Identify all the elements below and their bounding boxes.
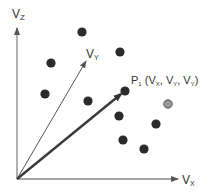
z-axis-label: VZ (12, 7, 25, 22)
x-axis-label: VX (182, 173, 195, 187)
highlight-point (164, 100, 172, 108)
data-point (115, 47, 124, 56)
p1-vector (17, 94, 121, 179)
vector-space-diagram: VZ VY VX P1 (VX, VY, VY) (0, 0, 210, 192)
data-point (118, 135, 127, 144)
data-point (46, 58, 55, 67)
data-point (77, 27, 86, 36)
data-point (139, 144, 148, 153)
data-point (114, 111, 123, 120)
data-point (83, 96, 92, 105)
data-point (40, 89, 49, 98)
y-axis-label: VY (86, 47, 99, 61)
y-axis (17, 61, 86, 179)
point-p1 (120, 86, 129, 95)
p1-label: P1 (VX, VY, VY) (131, 74, 198, 87)
data-point (151, 119, 160, 128)
data-points (40, 27, 172, 153)
